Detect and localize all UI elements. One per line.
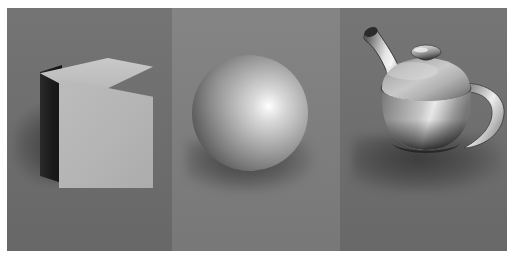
sphere-body <box>192 55 308 171</box>
sphere-object <box>172 8 340 251</box>
mat-border-top <box>0 0 515 8</box>
render-image <box>7 8 507 251</box>
mat-border-right <box>507 0 515 259</box>
mat-border-bottom <box>0 251 515 259</box>
cube-object <box>7 8 172 251</box>
teapot-lid-highlight <box>386 62 438 80</box>
teapot-object <box>340 8 507 251</box>
teapot-knob-highlight <box>414 47 428 52</box>
cube-front-face <box>59 74 153 188</box>
screenshot-root <box>0 0 515 259</box>
teapot-knob-shape <box>411 45 441 59</box>
mat-border-left <box>0 0 7 259</box>
teapot-render <box>340 8 507 251</box>
